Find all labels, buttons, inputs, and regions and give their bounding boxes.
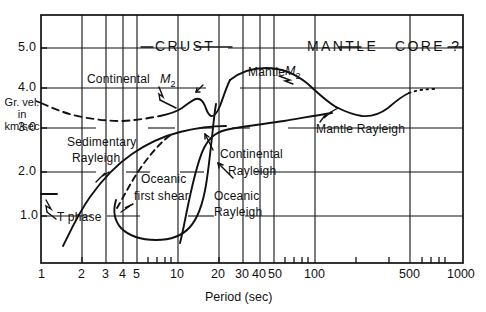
x-tick-label-500: 500 bbox=[399, 268, 420, 281]
curve-label-oceanic-shear-line1: Oceanic bbox=[141, 173, 186, 185]
curve-label-continental: Continental bbox=[87, 73, 150, 85]
y-tick-label-2: 2.0 bbox=[18, 165, 36, 178]
curve-continental-rayleigh bbox=[180, 113, 332, 243]
x-tick-label-1: 1 bbox=[38, 268, 45, 281]
y-tick-label-1: 1.0 bbox=[20, 209, 38, 222]
x-tick-label-4: 4 bbox=[119, 268, 126, 281]
curve-label-mantle-m2: M2 bbox=[285, 65, 300, 81]
x-tick-label-5: 5 bbox=[133, 268, 140, 281]
curve-label-continental-rayleigh-line2: Rayleigh bbox=[228, 165, 276, 177]
dispersion-curve-figure: 5.0 4.0 3.0 2.0 1.0 Gr. vel. in km/sec 1… bbox=[0, 0, 486, 312]
curve-label-oceanic-rayleigh-line2: Rayleigh bbox=[214, 206, 262, 218]
x-tick-label-2: 2 bbox=[78, 268, 85, 281]
curve-label-sedimentary-line2: Rayleigh bbox=[72, 152, 120, 164]
y-axis-caption-line3: km/sec bbox=[1, 120, 43, 133]
x-tick-label-3: 3 bbox=[102, 268, 109, 281]
curve-mantle-rayleigh-dotted bbox=[409, 89, 436, 93]
curve-label-mantle: Mantle bbox=[248, 66, 285, 78]
curve-label-mantle-rayleigh: Mantle Rayleigh bbox=[316, 123, 405, 135]
curve-continental-m2-dashed bbox=[41, 103, 160, 121]
x-tick-label-10: 10 bbox=[170, 268, 184, 281]
x-tick-label-1000: 1000 bbox=[447, 268, 475, 281]
curve-label-continental-m2: M2 bbox=[160, 73, 175, 89]
x-tick-label-100: 100 bbox=[304, 268, 325, 281]
zone-label-core: CORE ? bbox=[395, 39, 462, 53]
y-tick-label-5: 5.0 bbox=[18, 41, 36, 54]
x-tick-label-50: 50 bbox=[268, 268, 282, 281]
curve-label-oceanic-shear-line2: first shear bbox=[134, 190, 189, 202]
zone-label-mantle: MANTLE bbox=[307, 39, 378, 53]
curve-label-t-phase: T phase bbox=[57, 211, 102, 223]
leader-t-phase bbox=[46, 200, 51, 212]
y-tick-label-4: 4.0 bbox=[18, 81, 36, 94]
x-tick-label-40: 40 bbox=[252, 268, 266, 281]
leader-continental-m2 bbox=[159, 87, 163, 100]
curve-label-continental-rayleigh-line1: Continental bbox=[220, 148, 283, 160]
x-axis-title: Period (sec) bbox=[205, 291, 272, 304]
x-tick-label-30: 30 bbox=[235, 268, 249, 281]
curve-mantle-rayleigh bbox=[336, 93, 409, 116]
curve-label-oceanic-rayleigh-line1: Oceanic bbox=[214, 190, 259, 202]
x-tick-label-20: 20 bbox=[211, 268, 225, 281]
zone-label-crust: CRUST bbox=[155, 39, 215, 53]
curve-label-sedimentary-line1: Sedimentary bbox=[67, 136, 137, 148]
